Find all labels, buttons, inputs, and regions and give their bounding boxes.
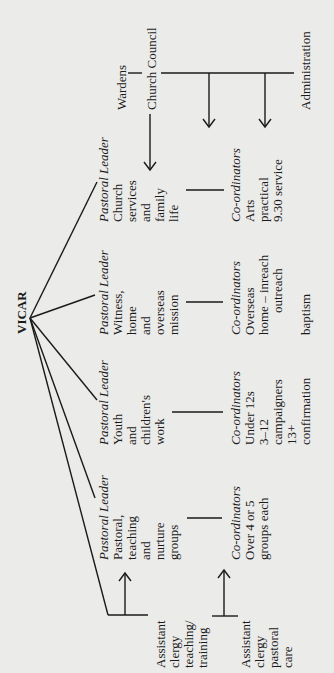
leader-title: Pastoral Leader [96, 474, 111, 561]
svg-text:clergy: clergy [252, 635, 267, 668]
svg-text:Over 4 or 5: Over 4 or 5 [242, 500, 257, 560]
leader-title: Pastoral Leader [96, 136, 111, 223]
pastoral-leader-3: Pastoral Leader Witness, home and overse… [96, 249, 181, 336]
administration-label: Administration [298, 31, 313, 110]
governance: Wardens Church Council Administration [114, 27, 313, 170]
vicar-node: VICAR [14, 291, 29, 334]
svg-text:teaching: teaching [124, 515, 139, 560]
svg-text:Co-ordinators: Co-ordinators [228, 261, 243, 335]
svg-text:overseas: overseas [152, 290, 167, 335]
pastoral-leader-1: Pastoral Leader Pastoral, teaching and n… [96, 474, 181, 561]
line-to-leader-1 [30, 318, 95, 498]
svg-text:Church: Church [110, 183, 125, 222]
svg-text:campaigners: campaigners [270, 379, 285, 445]
svg-text:mission: mission [166, 294, 181, 335]
svg-text:Overseas: Overseas [242, 287, 257, 335]
svg-text:nurture: nurture [152, 522, 167, 560]
svg-text:Assistant: Assistant [153, 620, 168, 668]
svg-text:services: services [124, 180, 139, 222]
svg-text:groups each: groups each [256, 497, 271, 560]
svg-text:training: training [195, 627, 210, 668]
svg-text:teaching/: teaching/ [181, 620, 196, 668]
svg-text:baptism: baptism [298, 294, 313, 335]
vicar-label: VICAR [14, 291, 29, 334]
svg-text:Arts: Arts [242, 200, 257, 222]
svg-text:clergy: clergy [167, 635, 182, 668]
wardens-label: Wardens [114, 65, 129, 110]
leader-title: Pastoral Leader [96, 249, 111, 336]
svg-text:and: and [138, 203, 153, 222]
svg-text:Co-ordinators: Co-ordinators [228, 371, 243, 445]
svg-text:groups: groups [166, 525, 181, 560]
svg-text:home – inreach: home – inreach [256, 254, 271, 335]
svg-text:Youth: Youth [110, 413, 125, 445]
coordinators-1: Co-ordinators Over 4 or 5 groups each [228, 486, 271, 560]
svg-text:family: family [152, 188, 167, 222]
svg-text:Pastoral,: Pastoral, [110, 515, 125, 560]
svg-text:9.30 service: 9.30 service [270, 159, 285, 222]
svg-text:pastoral: pastoral [266, 626, 281, 668]
coordinators-3: Co-ordinators Overseas home – inreach ou… [228, 254, 313, 335]
pastoral-leader-4: Pastoral Leader Church services and fami… [96, 136, 181, 223]
svg-text:home: home [124, 306, 139, 335]
svg-text:Co-ordinators: Co-ordinators [228, 148, 243, 222]
svg-text:confirmation: confirmation [298, 377, 313, 445]
svg-text:and: and [138, 316, 153, 335]
svg-text:care: care [280, 646, 295, 668]
assistant-clergy-teaching: Assistant clergy teaching/ training [153, 620, 210, 668]
svg-text:life: life [166, 204, 181, 222]
svg-text:Under 12s: Under 12s [242, 391, 257, 445]
svg-text:Assistant: Assistant [238, 620, 253, 668]
leader-title: Pastoral Leader [96, 359, 111, 446]
svg-text:outreach: outreach [270, 268, 285, 313]
svg-text:Witness,: Witness, [110, 290, 125, 335]
church-structure-diagram: VICAR Pastoral Leader Pastoral, teaching… [0, 0, 334, 673]
assistant-clergy-structure [108, 570, 238, 616]
church-council-label: Church Council [144, 27, 159, 110]
coordinators-2: Co-ordinators Under 12s 3–12 campaigners… [228, 371, 313, 445]
svg-text:children's: children's [138, 395, 153, 445]
svg-text:and: and [124, 426, 139, 445]
svg-text:Co-ordinators: Co-ordinators [228, 486, 243, 560]
svg-text:practical: practical [256, 177, 271, 222]
assistant-clergy-pastoral: Assistant clergy pastoral care [238, 620, 295, 668]
svg-text:3–12: 3–12 [256, 419, 271, 445]
coordinators-4: Co-ordinators Arts practical 9.30 servic… [228, 148, 285, 222]
leader-coordinator-connectors [172, 190, 224, 518]
svg-text:and: and [138, 541, 153, 560]
svg-text:work: work [152, 418, 167, 445]
pastoral-leader-2: Pastoral Leader Youth and children's wor… [96, 359, 167, 446]
svg-text:13+: 13+ [284, 425, 299, 445]
